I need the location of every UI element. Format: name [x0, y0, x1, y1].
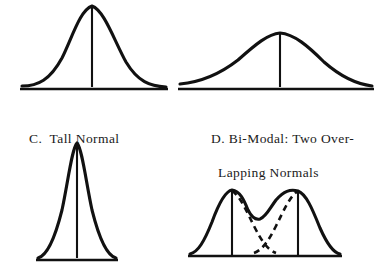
caption-tall-normal-text: C. — [29, 131, 42, 146]
normal-curve-path — [22, 6, 166, 87]
flat-normal-curve-path — [180, 33, 372, 86]
panel-flat-normal-curve — [176, 0, 384, 100]
distribution-shapes-figure: C. Tall Normal D. Bi-Modal: Two Over- La… — [0, 0, 384, 272]
caption-tall-normal: C. Tall Normal — [14, 113, 119, 164]
caption-bimodal-line-2: Lapping Normals — [196, 164, 354, 181]
panel-normal-curve — [0, 0, 192, 100]
caption-tall-normal-title: Tall Normal — [50, 131, 120, 146]
caption-bimodal-line-1: D. Bi-Modal: Two Over- — [211, 131, 354, 146]
caption-bimodal: D. Bi-Modal: Two Over- Lapping Normals — [196, 113, 354, 215]
